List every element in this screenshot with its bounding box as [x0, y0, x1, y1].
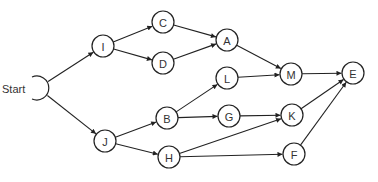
node-label: J — [102, 136, 108, 148]
node-e: E — [342, 62, 364, 84]
node-d: D — [152, 52, 174, 74]
node-i: I — [92, 35, 114, 57]
node-label: K — [288, 110, 296, 122]
edge-j-to-h — [116, 144, 158, 155]
edge-start-to-i — [48, 52, 93, 81]
edge-m-to-e — [302, 73, 342, 74]
edge-f-to-e — [300, 82, 346, 145]
start-arc — [32, 76, 49, 100]
node-k: K — [281, 104, 303, 126]
node-f: F — [283, 143, 305, 165]
node-g: G — [218, 105, 240, 127]
start-node: Start — [2, 76, 49, 100]
node-l: L — [216, 67, 238, 89]
node-label: D — [159, 58, 167, 70]
node-a: A — [216, 29, 238, 51]
edge-j-to-b — [115, 122, 156, 137]
edge-c-to-a — [174, 25, 216, 37]
node-label: F — [291, 149, 298, 161]
node-label: I — [101, 41, 104, 53]
node-h: H — [158, 146, 180, 168]
node-label: G — [225, 111, 234, 123]
node-label: M — [286, 69, 295, 81]
edge-i-to-c — [113, 26, 152, 42]
edge-b-to-g — [178, 116, 218, 117]
node-label: L — [224, 73, 230, 85]
edge-start-to-j — [47, 95, 96, 133]
node-label: C — [159, 17, 167, 29]
network-diagram: Start ICDAJBHLGMKFE — [0, 0, 378, 182]
node-label: H — [165, 152, 173, 164]
edge-a-to-m — [237, 45, 281, 68]
node-c: C — [152, 11, 174, 33]
node-label: A — [223, 35, 231, 47]
node-m: M — [280, 63, 302, 85]
node-j: J — [94, 130, 116, 152]
node-label: B — [163, 113, 170, 125]
node-label: E — [349, 68, 356, 80]
edge-g-to-k — [240, 115, 281, 116]
edge-h-to-f — [180, 154, 283, 156]
edge-d-to-a — [173, 44, 216, 59]
edge-l-to-m — [238, 75, 280, 78]
node-b: B — [156, 107, 178, 129]
start-label: Start — [2, 83, 25, 95]
edge-b-to-l — [176, 84, 217, 112]
edge-i-to-d — [114, 49, 152, 60]
